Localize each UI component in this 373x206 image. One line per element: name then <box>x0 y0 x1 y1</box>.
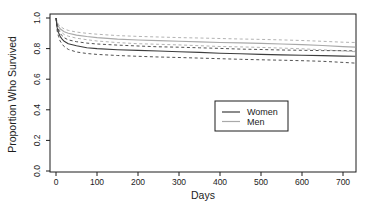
x-axis-tick-label: 500 <box>254 177 268 187</box>
legend-label-women: Women <box>247 107 278 117</box>
series-line-men-upper-ci <box>56 18 355 43</box>
y-axis-tick-label: 0.0 <box>32 165 42 177</box>
x-axis-tick-label: 0 <box>54 177 59 187</box>
survival-chart-figure: 01002003004005006007000.00.20.40.60.81.0… <box>0 0 373 206</box>
x-axis-title: Days <box>191 189 215 201</box>
series-line-men-estimate <box>56 18 355 47</box>
y-axis-title: Proportion Who Survived <box>6 36 18 153</box>
series-line-women-lower-ci <box>56 18 355 63</box>
y-axis-tick-label: 0.8 <box>32 42 42 54</box>
x-axis-tick-label: 100 <box>90 177 104 187</box>
y-axis-tick-label: 0.6 <box>32 73 42 85</box>
x-axis-tick-label: 700 <box>336 177 350 187</box>
y-axis-tick-label: 1.0 <box>32 12 42 24</box>
x-axis-tick-label: 600 <box>295 177 309 187</box>
x-axis-tick-label: 200 <box>131 177 145 187</box>
y-axis-tick-label: 0.2 <box>32 134 42 146</box>
y-axis-tick-label: 0.4 <box>32 104 42 116</box>
legend-label-men: Men <box>247 117 265 127</box>
survival-chart: 01002003004005006007000.00.20.40.60.81.0… <box>0 0 373 206</box>
x-axis-tick-label: 300 <box>172 177 186 187</box>
x-axis-tick-label: 400 <box>213 177 227 187</box>
